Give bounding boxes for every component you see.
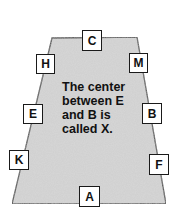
label-box-m: M xyxy=(129,53,148,73)
caption-line-2: between E xyxy=(62,94,132,108)
caption-line-3: and B is xyxy=(62,108,132,122)
label-box-c: C xyxy=(82,30,102,51)
label-box-h: H xyxy=(36,54,55,74)
label-box-k: K xyxy=(9,150,29,170)
label-box-a: A xyxy=(79,186,100,207)
label-box-f: F xyxy=(149,154,169,175)
caption-text: The center between E and B is called X. xyxy=(62,80,132,136)
caption-line-4: called X. xyxy=(62,122,132,136)
caption-line-1: The center xyxy=(62,80,132,94)
label-box-b: B xyxy=(142,103,162,124)
label-box-e: E xyxy=(23,104,43,124)
trapezoid-diagram: C H M E B K F A The center between E and… xyxy=(0,0,179,218)
